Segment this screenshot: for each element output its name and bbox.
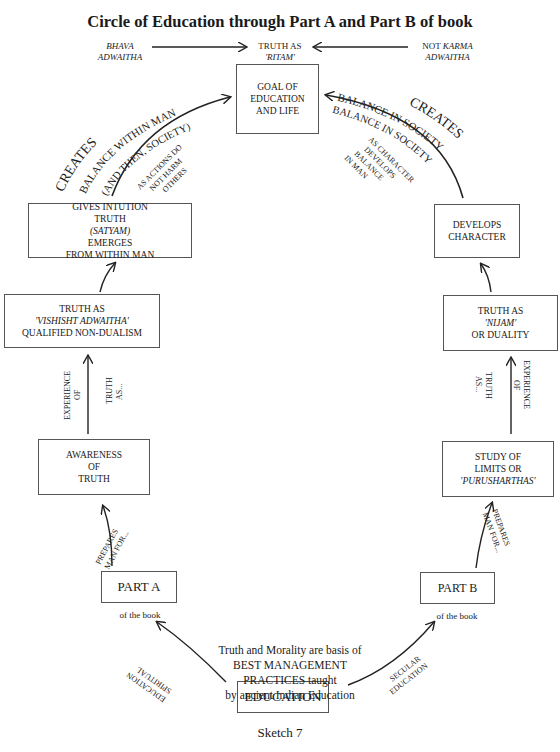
spiritual-education-label: SPIRITUAL EDUCATION: [125, 662, 174, 704]
arrow-vishisht-to-intuition: [100, 263, 115, 292]
label-line: AS...: [115, 384, 124, 400]
right-balance-label: BALANCE IN SOCIETY: [337, 91, 447, 153]
label-line: TRUTH: [484, 372, 493, 399]
text-path: BALANCE IN SOCIETY: [337, 91, 447, 153]
label-line: TRUTH: [105, 377, 114, 404]
right-truth-as-label: TRUTH AS...: [474, 372, 493, 399]
label-line: EXPERIENCE: [522, 360, 531, 409]
left-prepares-label: PREPARES MAN FOR...: [94, 524, 131, 570]
label-line: EXPERIENCE: [63, 371, 72, 420]
arrows-layer: CREATES BALANCE WITHIN MAN (AND THEN, SO…: [0, 0, 560, 752]
right-experience-label: EXPERIENCE OF: [512, 360, 531, 409]
label-line: OF: [73, 389, 82, 400]
right-prepares-label: PREPARES MAN FOR...: [481, 508, 513, 554]
left-experience-label: EXPERIENCE OF: [63, 371, 82, 420]
label-line: AS...: [474, 376, 483, 392]
arrow-education-to-parta: [157, 622, 226, 682]
label-line: OF: [512, 380, 521, 391]
secular-education-label: SECULAR EDUCATION: [382, 653, 430, 696]
left-truth-as-label: TRUTH AS...: [105, 377, 124, 404]
arrow-nijam-to-character: [481, 264, 491, 292]
